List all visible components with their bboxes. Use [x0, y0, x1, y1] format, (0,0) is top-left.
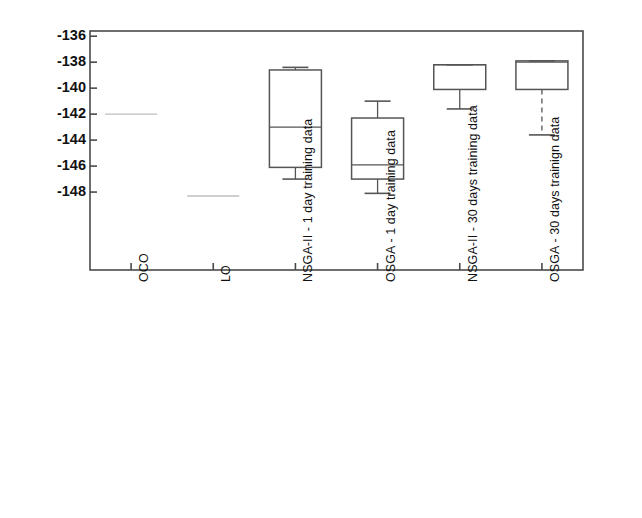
x-tick-label: OSGA - 30 days trainign data	[548, 117, 562, 282]
box-series-layer	[105, 61, 568, 196]
x-tick-marks	[131, 263, 542, 270]
box-rect	[434, 65, 486, 90]
box-plot-item	[434, 65, 486, 109]
x-tick-label: OSGA - 1 day training data	[384, 130, 398, 282]
x-tick-label: NSGA-II - 1 day training data	[301, 119, 315, 282]
x-tick-label: LO	[219, 265, 233, 282]
y-tick-marks	[90, 36, 97, 192]
x-tick-label: NSGA-II - 30 days training data	[466, 105, 480, 282]
axes-frame	[90, 31, 583, 270]
boxplot-plot-area	[0, 0, 642, 518]
figure-canvas: Balance [€] -136-138-140-142-144-146-148…	[0, 0, 642, 518]
box-rect	[516, 61, 568, 90]
x-tick-label: OCO	[137, 253, 151, 282]
